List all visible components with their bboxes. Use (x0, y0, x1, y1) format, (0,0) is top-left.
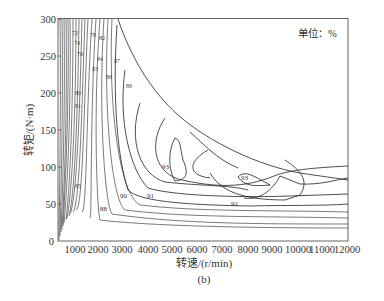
y-tick-200: 200 (40, 88, 56, 99)
contour-label-89: 89 (126, 83, 132, 89)
x-tick-8000: 8000 (238, 244, 259, 255)
contour-label-72: 72 (72, 30, 78, 36)
x-tick-3000: 3000 (112, 244, 133, 255)
contour-label-74: 74 (74, 40, 80, 46)
contour-label-83: 83 (92, 66, 98, 72)
max-torque-envelope (118, 19, 348, 180)
y-tick-150: 150 (40, 125, 56, 136)
contour-label-78: 78 (90, 32, 96, 38)
contour-label-88: 88 (100, 205, 108, 213)
contour-label-90: 90 (120, 192, 128, 200)
contour-label-93-b: 93 (241, 174, 249, 182)
unit-label: 单位：% (298, 27, 337, 39)
y-tick-0: 0 (49, 236, 54, 247)
efficiency-contour-chart: 300 250 200 150 100 50 0 1000 2000 3000 … (0, 0, 384, 301)
y-tick-50: 50 (46, 199, 57, 210)
x-tick-9000: 9000 (262, 244, 283, 255)
contour-label-80: 80 (75, 90, 81, 96)
contour-label-85: 85 (75, 183, 81, 189)
x-tick-2000: 2000 (88, 244, 109, 255)
contour-label-81: 81 (75, 103, 81, 109)
y-tick-250: 250 (40, 51, 56, 62)
x-tick-5000: 5000 (162, 244, 183, 255)
contour-label-86: 86 (106, 74, 112, 80)
contour-label-93-a: 93 (162, 163, 170, 171)
x-tick-12000: 12000 (334, 244, 360, 255)
x-tick-7000: 7000 (212, 244, 233, 255)
contour-label-87: 87 (114, 58, 120, 64)
x-tick-1000: 1000 (65, 244, 86, 255)
contour-label-76: 76 (77, 51, 83, 57)
x-tick-6000: 6000 (187, 244, 208, 255)
y-axis-title: 转矩/(N·m) (22, 103, 36, 156)
contour-label-91: 91 (147, 192, 155, 200)
x-tick-labels: 1000 2000 3000 4000 5000 6000 7000 8000 … (65, 244, 361, 255)
contour-label-84: 84 (97, 56, 103, 62)
x-tick-11000: 11000 (309, 244, 335, 255)
y-tick-100: 100 (40, 162, 56, 173)
contour-label-82: 82 (99, 35, 105, 41)
y-tick-300: 300 (40, 14, 56, 25)
x-tick-4000: 4000 (138, 244, 159, 255)
chart-subtitle: (b) (198, 273, 211, 286)
y-tick-labels: 300 250 200 150 100 50 0 (40, 14, 56, 247)
x-axis-title: 转速/(r/min) (176, 256, 233, 270)
x-tick-10000: 10000 (285, 244, 311, 255)
contour-label-92: 92 (231, 200, 239, 208)
